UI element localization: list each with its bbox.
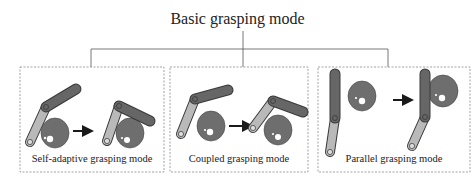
object-disc [428,75,458,107]
self-adaptive-after-illustration [104,104,150,149]
self-adaptive-before-illustration [27,89,76,148]
object-disc [41,118,69,148]
coupled-mode-label: Coupled grasping mode [170,153,308,165]
tree-connector [91,31,388,67]
parallel-mode-label: Parallel grasping mode [318,153,470,165]
coupled-before-illustration [178,90,228,141]
parallel-before-illustration [327,74,376,155]
parallel-after-illustration [409,74,458,149]
object-disc [264,115,292,145]
object-disc [116,118,144,148]
object-disc [197,111,225,141]
self-adaptive-mode-label: Self-adaptive grasping mode [20,153,164,165]
coupled-after-illustration [250,99,303,146]
object-disc [348,81,376,111]
